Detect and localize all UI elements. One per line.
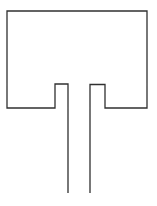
diagram-canvas [0,0,157,206]
diagram-background [0,0,157,206]
t-shape-diagram [0,0,157,206]
